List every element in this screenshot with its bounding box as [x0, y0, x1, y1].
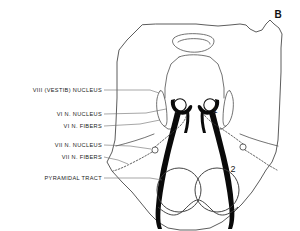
callout-number-1: 1	[212, 105, 217, 115]
panel-letter-b: B	[274, 9, 281, 20]
label-vi-n-fibers: VI N. FIBERS	[64, 123, 102, 129]
vii-nucleus-right-circle	[240, 144, 246, 150]
label-pyramidal-tract: PYRAMIDAL TRACT	[45, 175, 103, 181]
callout-number-2: 2	[230, 164, 235, 174]
brainstem-outline-group	[107, 20, 282, 230]
label-vii-n-fibers: VII N. FIBERS	[62, 154, 102, 160]
anatomical-figure-panel-b: VIII (VESTIB) NUCLEUS VI N. NUCLEUS VI N…	[0, 0, 300, 231]
vii-nucleus-left-circle	[152, 147, 158, 153]
label-vii-n-nucleus: VII N. NUCLEUS	[55, 142, 102, 148]
label-viii-vestib-nucleus: VIII (VESTIB) NUCLEUS	[33, 87, 102, 93]
label-vi-n-nucleus: VI N. NUCLEUS	[57, 111, 102, 117]
brainstem-outline	[107, 20, 282, 230]
